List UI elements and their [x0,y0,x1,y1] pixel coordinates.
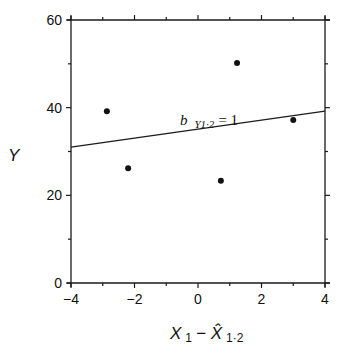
y-tick-label: 60 [46,12,62,28]
y-tick-label: 20 [46,187,62,203]
annotation-slope: b Y1·2 = 1 [180,111,238,131]
y-tick-label: 40 [46,100,62,116]
x-tick-label: −4 [63,291,79,307]
axis-tick-labels: −4−20240204060 [46,12,329,307]
data-point [104,108,110,114]
axis-ticks [66,15,330,288]
data-point [218,178,224,184]
x-tick-label: 4 [321,291,329,307]
data-point [234,60,240,66]
x-tick-label: 0 [194,291,202,307]
y-tick-label: 0 [54,275,62,291]
x-tick-label: 2 [258,291,266,307]
x-tick-label: −2 [127,291,143,307]
plot-frame [67,16,330,287]
scatter-chart: −4−20240204060 b Y1·2 = 1 Y X 1 − X̂ 1·2 [0,0,345,356]
x-axis-title: X 1 − X̂ 1·2 [169,323,244,345]
data-point [290,117,296,123]
data-point [125,165,131,171]
y-axis-title: Y [8,146,21,165]
